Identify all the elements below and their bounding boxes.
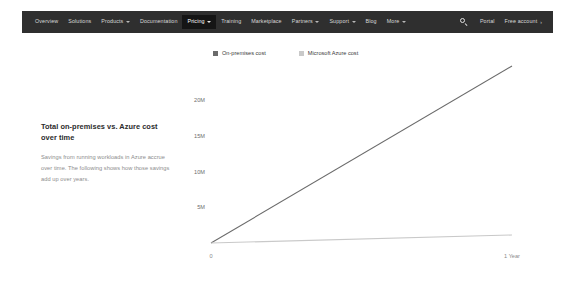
nav-item-documentation[interactable]: Documentation xyxy=(135,15,183,28)
cost-comparison-line-chart: 20M 15M 10M 5M 0 1 Year xyxy=(183,60,543,265)
search-icon-ring xyxy=(460,18,465,23)
chevron-down-icon xyxy=(207,21,211,23)
chevron-down-icon xyxy=(402,21,406,23)
nav-item-solutions[interactable]: Solutions xyxy=(63,15,96,28)
nav-item-more[interactable]: More xyxy=(382,15,411,28)
nav-item-pricing[interactable]: Pricing xyxy=(182,15,216,28)
nav-item-label: More xyxy=(387,19,400,24)
chevron-down-icon xyxy=(315,21,319,23)
y-axis-tick-label-15m: 15M xyxy=(194,133,205,139)
section-body-text: Savings from running workloads in Azure … xyxy=(41,152,173,184)
nav-item-label: Solutions xyxy=(68,19,91,24)
y-axis-tick-label-10m: 10M xyxy=(194,169,205,175)
chart-description-block: Total on-premises vs. Azure cost over ti… xyxy=(41,122,173,184)
nav-item-partners[interactable]: Partners xyxy=(287,15,325,28)
legend-swatch xyxy=(299,51,304,56)
nav-item-label: Free account xyxy=(505,19,538,24)
nav-item-label: Pricing xyxy=(187,19,204,24)
search-icon-handle xyxy=(465,23,468,26)
top-navigation-bar: Overview Solutions Products Documentatio… xyxy=(22,11,553,33)
nav-item-overview[interactable]: Overview xyxy=(30,15,63,28)
legend-item-azure[interactable]: Microsoft Azure cost xyxy=(299,51,358,57)
y-axis-tick-label-5m: 5M xyxy=(197,204,205,210)
series-line-azure-cost xyxy=(211,235,512,243)
chevron-down-icon xyxy=(126,21,130,23)
search-icon[interactable] xyxy=(460,18,468,26)
nav-item-label: Products xyxy=(101,19,123,24)
x-axis-tick-label-0: 0 xyxy=(209,253,212,259)
nav-item-label: Training xyxy=(221,19,241,24)
chevron-right-icon: › xyxy=(540,20,542,25)
nav-item-training[interactable]: Training xyxy=(216,15,246,28)
legend-item-on-premises[interactable]: On-premises cost xyxy=(213,51,266,57)
nav-item-free-account[interactable]: Free account › xyxy=(500,15,547,28)
nav-item-label: Documentation xyxy=(140,19,178,24)
nav-item-support[interactable]: Support xyxy=(324,15,360,28)
legend-swatch xyxy=(213,51,218,56)
chart-legend: On-premises cost Microsoft Azure cost xyxy=(213,51,358,57)
nav-item-label: Overview xyxy=(35,19,58,24)
nav-item-label: Marketplace xyxy=(251,19,281,24)
section-heading: Total on-premises vs. Azure cost over ti… xyxy=(41,122,173,143)
nav-item-blog[interactable]: Blog xyxy=(361,15,382,28)
y-axis-tick-label-20m: 20M xyxy=(194,97,205,103)
nav-primary-links: Overview Solutions Products Documentatio… xyxy=(30,15,456,28)
chevron-down-icon xyxy=(352,21,356,23)
nav-secondary-links: Portal Free account › xyxy=(456,15,547,28)
nav-item-label: Support xyxy=(329,19,349,24)
nav-item-label: Portal xyxy=(480,19,495,24)
nav-item-label: Partners xyxy=(292,19,313,24)
x-axis-tick-label-1-year: 1 Year xyxy=(504,253,520,259)
nav-item-products[interactable]: Products xyxy=(96,15,135,28)
chart-svg: 20M 15M 10M 5M 0 1 Year xyxy=(183,60,543,265)
legend-label: On-premises cost xyxy=(222,51,266,57)
nav-item-portal[interactable]: Portal xyxy=(475,15,500,28)
legend-label: Microsoft Azure cost xyxy=(308,51,358,57)
nav-item-label: Blog xyxy=(366,19,377,24)
nav-item-marketplace[interactable]: Marketplace xyxy=(246,15,286,28)
series-line-on-premises-cost xyxy=(211,66,512,243)
